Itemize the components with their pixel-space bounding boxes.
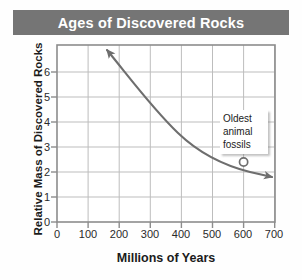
chart-figure: Ages of Discovered Rocks Relative Mass o…: [0, 0, 302, 280]
oldest-animal-fossils-marker: [240, 158, 248, 166]
oldest-animal-fossils-label: Oldest animal fossils: [220, 110, 268, 154]
annotation-line-2: animal: [223, 125, 266, 138]
annotation-line-3: fossils: [223, 138, 266, 151]
annotation-line-1: Oldest: [223, 112, 266, 125]
